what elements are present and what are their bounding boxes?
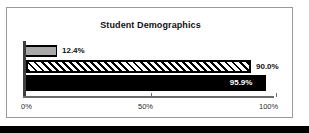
plot-area: 12.4% 90.0% 95.9% 0% 50% 100%: [23, 41, 289, 101]
x-tick-label-100: 100%: [259, 102, 278, 111]
x-tick-label-0: 0%: [21, 102, 32, 111]
bar-value-label-2: 90.0%: [256, 60, 279, 73]
bar-value-label-1: 12.4%: [62, 45, 85, 57]
chart-frame: Student Demographics 12.4% 90.0% 95.9% 0…: [6, 7, 293, 118]
bar-value-label-3: 95.9%: [230, 75, 253, 91]
bottom-divider-bar: [0, 126, 309, 133]
bar-series-2: [26, 60, 251, 73]
x-axis-tick-100: [276, 93, 277, 97]
x-axis-tick-50: [151, 93, 152, 97]
chart-title: Student Demographics: [7, 20, 294, 30]
screenshot-root: Student Demographics 12.4% 90.0% 95.9% 0…: [0, 0, 309, 133]
x-tick-label-50: 50%: [138, 102, 153, 111]
bar-series-1: [26, 45, 57, 57]
x-axis-line: [23, 96, 274, 98]
